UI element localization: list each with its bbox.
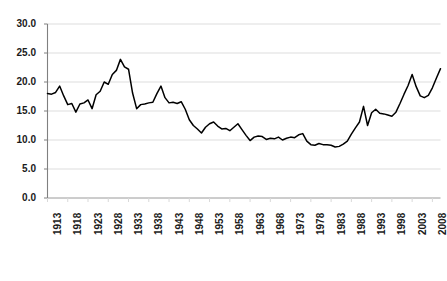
x-tick-label-1948: 1948: [194, 213, 205, 235]
y-tick-label-15.0: 15.0: [2, 105, 36, 116]
chart-container: 30.025.020.015.010.05.00.0 1913191819231…: [0, 0, 447, 281]
y-tick-label-20.0: 20.0: [2, 76, 36, 87]
y-tick-label-10.0: 10.0: [2, 134, 36, 145]
gridlines: [48, 24, 441, 198]
x-tick-label-1938: 1938: [153, 213, 164, 235]
x-tick-label-2003: 2003: [417, 213, 428, 235]
y-tick-label-25.0: 25.0: [2, 47, 36, 58]
x-tick-label-1998: 1998: [396, 213, 407, 235]
data-line-top-10-income-share: [48, 59, 441, 147]
x-tick-label-1983: 1983: [336, 213, 347, 235]
x-tick-label-1963: 1963: [255, 213, 266, 235]
y-tick-label-0.0: 0.0: [2, 192, 36, 203]
x-tick-label-1923: 1923: [93, 213, 104, 235]
x-tick-label-1988: 1988: [356, 213, 367, 235]
x-tick-label-1993: 1993: [376, 213, 387, 235]
line-chart-plot: [0, 0, 447, 281]
x-tick-label-1958: 1958: [234, 213, 245, 235]
x-tick-label-1943: 1943: [174, 213, 185, 235]
x-tick-label-1928: 1928: [113, 213, 124, 235]
x-tick-label-1973: 1973: [295, 213, 306, 235]
x-tick-label-1953: 1953: [214, 213, 225, 235]
x-axis-ticks: [48, 198, 433, 202]
y-tick-label-30.0: 30.0: [2, 18, 36, 29]
y-tick-label-5.0: 5.0: [2, 163, 36, 174]
x-tick-label-1968: 1968: [275, 213, 286, 235]
x-tick-label-1913: 1913: [52, 213, 63, 235]
x-tick-label-1918: 1918: [72, 213, 83, 235]
x-tick-label-1978: 1978: [315, 213, 326, 235]
x-tick-label-1933: 1933: [133, 213, 144, 235]
x-tick-label-2008: 2008: [437, 213, 447, 235]
